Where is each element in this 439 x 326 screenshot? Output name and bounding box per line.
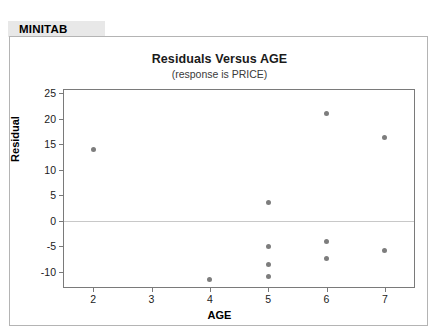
scatter-point [324, 111, 329, 116]
x-axis-tick-label: 4 [195, 294, 225, 305]
scatter-point [266, 274, 271, 279]
y-axis-tick-label: 0 [16, 216, 56, 226]
x-axis-title: AGE [10, 309, 429, 321]
y-axis-tick [59, 272, 64, 273]
chart-title: Residuals Versus AGE [10, 52, 429, 66]
y-axis-tick-label: -10 [16, 267, 56, 277]
y-axis-tick [59, 221, 64, 222]
y-axis-tick-label: 10 [16, 165, 56, 175]
y-axis-tick [59, 119, 64, 120]
x-axis-tick [152, 287, 153, 292]
y-axis-tick [59, 170, 64, 171]
scatter-plot-area: 2520151050-5-10234567 [63, 89, 415, 288]
scatter-point [266, 200, 271, 205]
x-axis-tick-label: 3 [137, 294, 167, 305]
minitab-label: MINITAB [19, 22, 67, 36]
y-axis-tick [59, 195, 64, 196]
zero-reference-line [64, 221, 414, 222]
x-axis-tick-label: 6 [312, 294, 342, 305]
y-axis-tick [59, 246, 64, 247]
y-axis-tick-label: 15 [16, 139, 56, 149]
y-axis-tick [59, 144, 64, 145]
scatter-point [207, 277, 212, 282]
x-axis-tick-label: 7 [370, 294, 400, 305]
y-axis-tick-label: 5 [16, 190, 56, 200]
figure-panel: Residuals Versus AGE (response is PRICE)… [9, 36, 428, 326]
y-axis-tick [59, 93, 64, 94]
y-axis-tick-label: 25 [16, 88, 56, 98]
x-axis-tick [327, 287, 328, 292]
scatter-point [382, 248, 387, 253]
scatter-point [324, 239, 329, 244]
x-axis-tick [268, 287, 269, 292]
x-axis-tick [93, 287, 94, 292]
scatter-point [382, 135, 387, 140]
chart-subtitle: (response is PRICE) [10, 68, 429, 80]
scatter-point [266, 262, 271, 267]
scatter-point [324, 256, 329, 261]
scatter-point [91, 147, 96, 152]
scatter-point [266, 244, 271, 249]
x-axis-tick-label: 5 [253, 294, 283, 305]
y-axis-tick-label: 20 [16, 114, 56, 124]
x-axis-tick [385, 287, 386, 292]
x-axis-tick [210, 287, 211, 292]
x-axis-tick-label: 2 [78, 294, 108, 305]
y-axis-tick-label: -5 [16, 241, 56, 251]
